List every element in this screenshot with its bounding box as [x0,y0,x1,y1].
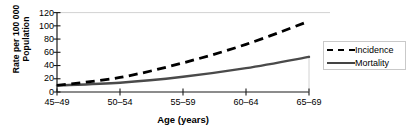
series-line-mortality [57,57,309,85]
dashed-line-key [327,44,355,56]
legend: Incidence Mortality [323,41,406,70]
solid-line-key [327,57,355,69]
legend-label: Incidence [355,45,394,55]
chart-figure: Rate per 100 000 Population 120 100 80 6… [0,0,411,132]
legend-item-incidence: Incidence [327,43,394,56]
legend-label: Mortality [355,58,389,68]
legend-item-mortality: Mortality [327,56,389,69]
